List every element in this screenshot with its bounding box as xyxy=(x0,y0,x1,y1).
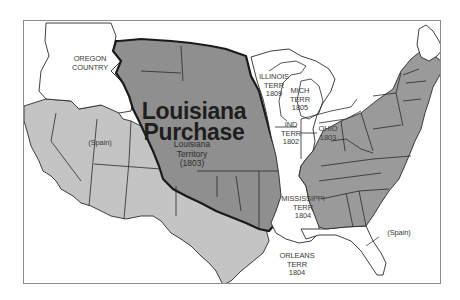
label-line: (Spain) xyxy=(82,139,118,148)
louisiana-purchase-title: Louisiana Purchase xyxy=(124,101,264,143)
subtitle-line-3: (1803) xyxy=(162,159,222,169)
map-frame: OREGON COUNTRY (Spain) Louisiana Purchas… xyxy=(23,20,441,284)
maine-region xyxy=(417,25,441,61)
label-line: COUNTRY xyxy=(64,64,116,73)
label-line: 1804 xyxy=(279,212,327,221)
label-line: 1803 xyxy=(316,134,340,143)
label-line: 1809 xyxy=(257,90,291,99)
label-line: 1805 xyxy=(287,104,313,113)
label-line: 1804 xyxy=(277,269,317,278)
label-line: 1802 xyxy=(281,138,301,147)
label-michigan-terr: MICH TERR 1805 xyxy=(287,87,313,113)
label-spain-west: (Spain) xyxy=(82,139,118,148)
louisiana-territory-subtitle: Louisiana Territory (1803) xyxy=(162,140,222,169)
label-orleans-terr: ORLEANS TERR 1804 xyxy=(277,252,317,278)
label-line: (Spain) xyxy=(381,229,417,238)
label-spain-florida: (Spain) xyxy=(381,229,417,238)
label-ohio: OHIO 1803 xyxy=(316,125,340,142)
label-oregon-country: OREGON COUNTRY xyxy=(64,55,116,72)
label-mississippi-terr: MISSISSIPPI TERR 1804 xyxy=(279,195,327,221)
label-illinois-terr: ILLINOIS TERR 1809 xyxy=(257,73,291,99)
label-indiana-terr: IND TERR 1802 xyxy=(281,121,301,147)
